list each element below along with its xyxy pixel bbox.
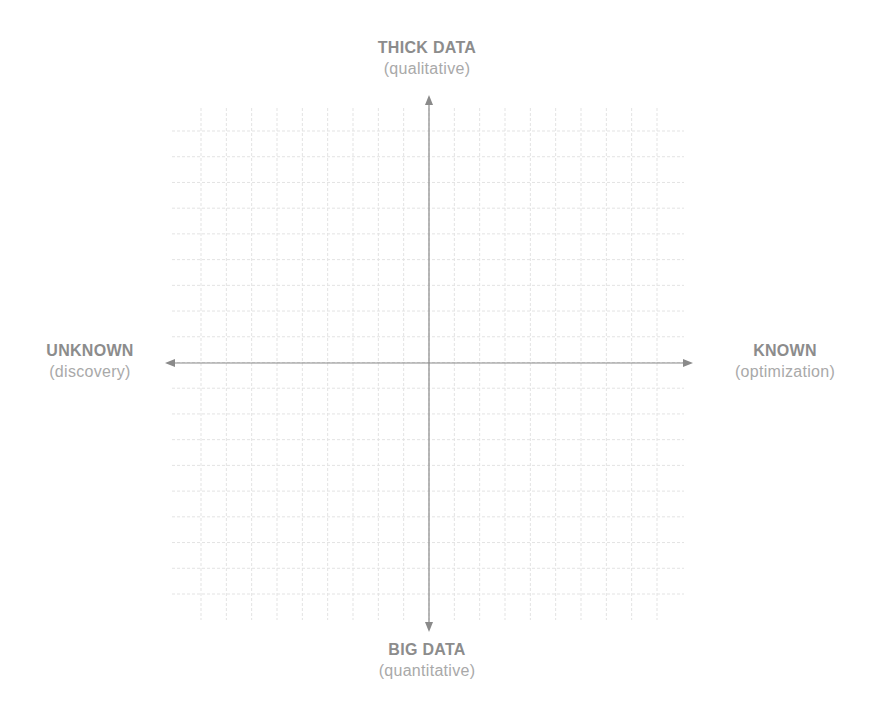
axis-label-right-title: KNOWN bbox=[700, 343, 870, 359]
arrow-up-icon bbox=[425, 95, 433, 105]
arrow-right-icon bbox=[683, 359, 693, 367]
axis-label-bottom-title: BIG DATA bbox=[327, 642, 527, 658]
axis-label-left-title: UNKNOWN bbox=[20, 343, 160, 359]
axis-label-left-subtitle: (discovery) bbox=[20, 364, 160, 380]
axis-label-bottom-subtitle: (quantitative) bbox=[327, 663, 527, 679]
axis-label-top: THICK DATA (qualitative) bbox=[327, 40, 527, 77]
axis-label-top-subtitle: (qualitative) bbox=[327, 61, 527, 77]
background-grid bbox=[172, 108, 684, 620]
axis-label-left: UNKNOWN (discovery) bbox=[20, 343, 160, 380]
axis-label-right-subtitle: (optimization) bbox=[700, 364, 870, 380]
arrow-left-icon bbox=[165, 359, 175, 367]
arrow-down-icon bbox=[425, 622, 433, 632]
axis-label-bottom: BIG DATA (quantitative) bbox=[327, 642, 527, 679]
axis-label-top-title: THICK DATA bbox=[327, 40, 527, 56]
axes bbox=[165, 95, 693, 632]
axis-label-right: KNOWN (optimization) bbox=[700, 343, 870, 380]
